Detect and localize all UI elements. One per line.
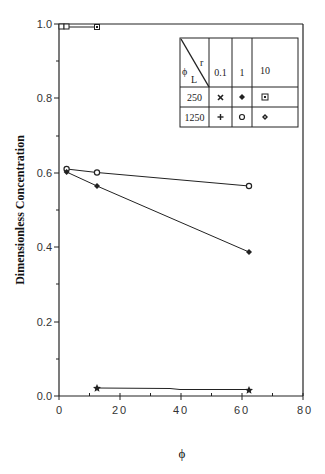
y-tick-label: 0.8 [37,92,52,104]
legend-col-header: 0.1 [214,67,227,78]
x-tick-labels: 0 20 40 60 80 [56,404,313,416]
circle-marker [246,183,251,188]
chart: 0.0 0.2 0.4 0.6 0.8 1.0 0 20 40 60 80 Di… [0,0,325,474]
x-axis-title: ϕ [179,446,186,461]
legend-L-label: L [191,74,197,85]
diamond-marker [246,249,252,255]
legend-row-header: 1250 [185,112,205,123]
legend-open-circle-icon [240,115,245,120]
legend-phi-label: ϕ [182,66,187,77]
star-marker [93,384,101,392]
series-filled-diamonds [64,169,252,255]
series-squares [59,24,100,30]
series-open-circles [64,166,252,188]
x-tick-label: 80 [297,404,313,416]
x-tick-label: 60 [234,404,250,416]
square-marker [59,24,64,29]
series-stars [93,384,253,394]
y-tick-labels: 0.0 0.2 0.4 0.6 0.8 1.0 [37,18,52,402]
x-tick-label: 40 [173,404,189,416]
legend-col-header: 1 [240,67,245,78]
circle-marker [94,170,99,175]
y-axis-title: Dimensionless Concentration [13,135,27,285]
legend-row-header: 250 [187,92,202,103]
star-marker [245,386,253,394]
y-tick-label: 0.0 [37,390,52,402]
legend-col-header: 10 [260,65,270,76]
y-tick-label: 0.2 [37,316,52,328]
legend-table: r ϕ L 0.1 1 10 250 1250 [180,38,298,127]
x-tick-label: 0 [56,404,62,416]
square-marker [64,24,69,29]
diamond-marker [94,183,100,189]
y-tick-label: 0.6 [37,167,52,179]
y-ticks [54,24,59,396]
y-tick-label: 1.0 [37,18,52,30]
legend-dotted-square-icon [262,94,268,100]
x-tick-label: 20 [112,404,128,416]
y-tick-label: 0.4 [37,241,52,253]
